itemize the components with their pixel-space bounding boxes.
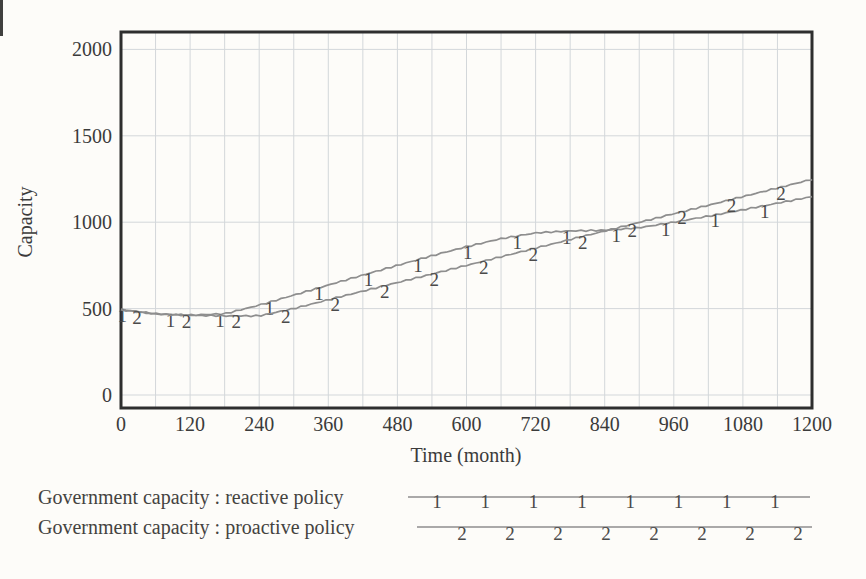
y-tick-label: 2000 [72,38,112,60]
x-tick-label: 120 [175,413,205,435]
legend-sample-marker-2: 2 [793,523,803,544]
y-tick-label: 1000 [72,211,112,233]
scan-edge-artifact [0,0,3,36]
legend-sample-marker-1: 1 [481,491,491,512]
series-marker-1: 1 [711,210,721,231]
series-marker-1: 1 [562,227,572,248]
series-marker-2: 2 [430,269,440,290]
legend-sample-layer: 1111111122222222 [408,491,812,544]
series-marker-1: 1 [413,255,423,276]
series-marker-1: 1 [760,201,770,222]
x-tick-label: 600 [452,413,482,435]
x-tick-label: 960 [659,413,689,435]
series-marker-1: 1 [166,310,176,331]
legend-sample-marker-1: 1 [674,491,684,512]
legend-sample-marker-2: 2 [745,523,755,544]
series-marker-2: 2 [231,311,241,332]
series-marker-2: 2 [182,311,192,332]
series-marker-2: 2 [380,281,390,302]
y-axis-title: Capacity [14,186,37,257]
series-marker-1: 1 [265,298,275,319]
x-tick-label: 840 [590,413,620,435]
x-tick-label: 240 [244,413,274,435]
series-marker-2: 2 [628,220,638,241]
legend-sample-marker-1: 1 [625,491,635,512]
legend-sample-marker-1: 1 [432,491,442,512]
series-marker-2: 2 [281,306,291,327]
series-marker-1: 1 [661,219,671,240]
series-marker-2: 2 [330,294,340,315]
x-axis-title: Time (month) [411,444,522,467]
series-marker-2: 2 [132,307,142,328]
y-tick-label: 0 [102,384,112,406]
legend-sample-marker-1: 1 [770,491,780,512]
legend-sample-marker-1: 1 [529,491,539,512]
series-marker-1: 1 [215,310,225,331]
series-layer: 1111111111111122222222222222 [117,179,812,332]
series-marker-1: 1 [117,305,127,326]
legend-sample-marker-2: 2 [601,523,611,544]
series-marker-1: 1 [512,232,522,253]
series-marker-2: 2 [578,232,588,253]
tick-label-layer: 0120240360480600720840960108012000500100… [72,38,832,435]
series-marker-1: 1 [463,242,473,263]
series-marker-2: 2 [479,257,489,278]
y-tick-label: 1500 [72,125,112,147]
x-tick-label: 1200 [792,413,832,435]
legend-sample-marker-2: 2 [505,523,515,544]
legend-sample-marker-1: 1 [577,491,587,512]
legend-sample-marker-2: 2 [553,523,563,544]
x-tick-label: 0 [116,413,126,435]
legend-entry-proactive-label: Government capacity : proactive policy [38,516,355,539]
series-marker-1: 1 [364,269,374,290]
chart-figure: 1111111111111122222222222222 01202403604… [0,0,866,579]
y-tick-label: 500 [82,298,112,320]
series-marker-2: 2 [727,195,737,216]
x-tick-label: 360 [313,413,343,435]
capacity-line-chart: 1111111111111122222222222222 01202403604… [0,0,866,579]
legend-entry-reactive-label: Government capacity : reactive policy [38,486,343,509]
x-tick-label: 480 [382,413,412,435]
series-marker-2: 2 [529,244,539,265]
x-tick-label: 1080 [723,413,763,435]
x-tick-label: 720 [521,413,551,435]
series-marker-2: 2 [776,183,786,204]
legend-sample-marker-2: 2 [697,523,707,544]
legend-sample-marker-2: 2 [649,523,659,544]
series-marker-2: 2 [677,207,687,228]
grid-layer [121,32,812,408]
legend-sample-marker-1: 1 [722,491,732,512]
legend-sample-marker-2: 2 [457,523,467,544]
